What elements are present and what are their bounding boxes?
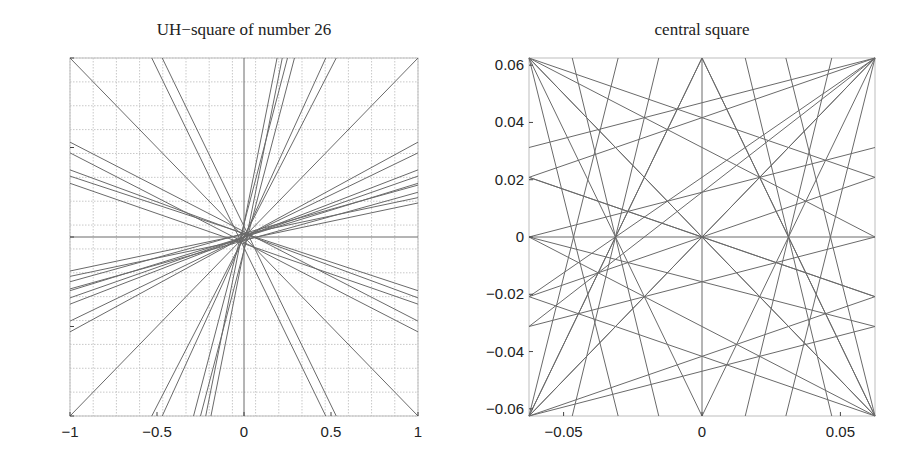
x-tick-label: 0.05 bbox=[826, 423, 855, 440]
data-line bbox=[789, 58, 876, 237]
y-tick-label: −0.02 bbox=[486, 285, 524, 302]
data-line bbox=[702, 237, 789, 416]
x-tick-label: −0.05 bbox=[545, 423, 583, 440]
y-tick-label: −0.06 bbox=[486, 400, 524, 417]
data-line bbox=[616, 237, 703, 416]
data-line bbox=[529, 58, 616, 237]
right-chart-plot bbox=[0, 0, 913, 473]
y-tick-label: 0 bbox=[516, 228, 524, 245]
y-tick-label: 0.04 bbox=[495, 113, 524, 130]
x-tick-label: 0 bbox=[698, 423, 706, 440]
right-chart-panel: central square −0.0500.05−0.06−0.04−0.02… bbox=[0, 0, 913, 473]
y-tick-label: −0.04 bbox=[486, 343, 524, 360]
data-line bbox=[702, 58, 875, 237]
plot-area bbox=[529, 58, 875, 416]
y-tick-label: 0.02 bbox=[495, 171, 524, 188]
data-line bbox=[702, 237, 875, 416]
y-tick-label: 0.06 bbox=[495, 56, 524, 73]
